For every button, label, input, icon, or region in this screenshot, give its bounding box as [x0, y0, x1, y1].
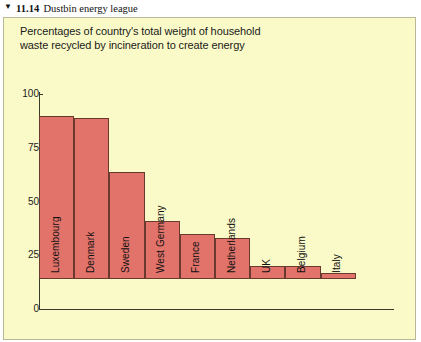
y-axis-tick-label: 100 — [15, 88, 39, 99]
bar-series: LuxembourgDenmarkSwedenWest GermanyFranc… — [39, 18, 391, 310]
bar-category-label-text: Netherlands — [226, 218, 237, 273]
bar-category-label-text: Italy — [331, 254, 342, 273]
y-axis-tick: 100 — [8, 94, 39, 95]
y-axis-tick: 0 — [8, 309, 39, 310]
y-axis-tick-label: 50 — [15, 196, 39, 207]
y-axis-tick-label: 25 — [15, 249, 39, 260]
figure-caption-text: Dustbin energy league — [43, 3, 137, 14]
figure-caption: ▼ 11.14 Dustbin energy league — [4, 0, 138, 16]
bar-category-label: Denmark — [81, 232, 92, 275]
bar[interactable] — [321, 273, 356, 279]
bar-category-label-text: Denmark — [85, 232, 96, 273]
bar-category-label-text: France — [190, 241, 201, 273]
bar-category-label: Italy — [327, 254, 338, 275]
bar-category-label: UK — [257, 259, 268, 275]
bar-category-label-text: West Germany — [155, 205, 166, 273]
y-axis-tick: 25 — [8, 255, 39, 256]
bar-category-label-text: UK — [261, 259, 272, 273]
figure-number: 11.14 — [16, 3, 40, 14]
bar-category-label: France — [186, 241, 197, 275]
bar-category-label: Netherlands — [222, 218, 233, 275]
y-axis-tick-label: 0 — [15, 303, 39, 314]
y-axis-tick-label: 75 — [15, 142, 39, 153]
bar-category-label: West Germany — [151, 205, 162, 275]
chart-panel: Percentages of country's total weight of… — [3, 17, 416, 340]
bar-category-label: Belgium — [292, 236, 303, 275]
bar-category-label: Luxembourg — [46, 216, 57, 275]
bar-category-label-text: Belgium — [296, 236, 307, 273]
y-axis-tick: 75 — [8, 148, 39, 149]
bar-category-label-text: Luxembourg — [50, 216, 61, 273]
y-axis-tick: 50 — [8, 202, 39, 203]
bar-category-label-text: Sweden — [120, 236, 131, 273]
bar-category-label: Sweden — [116, 236, 127, 275]
triangle-down-icon: ▼ — [4, 3, 12, 11]
plot-area: 0255075100 LuxembourgDenmarkSwedenWest G… — [4, 18, 416, 340]
